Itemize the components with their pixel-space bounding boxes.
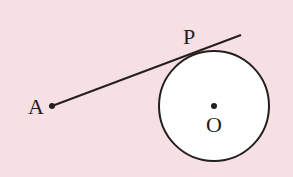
point-o-dot — [211, 103, 217, 109]
point-a-dot — [49, 103, 55, 109]
label-a: A — [28, 94, 44, 119]
tangent-diagram: A P O — [0, 0, 293, 177]
label-o: O — [206, 112, 222, 137]
label-p: P — [183, 24, 195, 49]
diagram-canvas: A P O — [0, 0, 293, 177]
